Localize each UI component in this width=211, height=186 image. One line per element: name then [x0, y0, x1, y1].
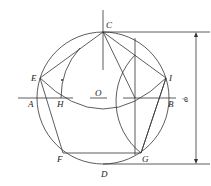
pentagon-construction-diagram: φ CEIFGAHBDO	[0, 0, 211, 186]
point-labels: CEIFGAHBDO	[27, 20, 174, 179]
point-label-i: I	[168, 73, 173, 83]
point-label-a: A	[27, 99, 34, 109]
point-label-g: G	[142, 154, 149, 164]
point-label-e: E	[30, 73, 37, 83]
point-label-d: D	[100, 169, 108, 179]
point-label-h: H	[56, 99, 64, 109]
dim-arrow-bottom-icon	[194, 159, 198, 164]
point-label-o: O	[95, 88, 102, 98]
point-label-b: B	[168, 99, 174, 109]
arc-arrow-dot	[61, 79, 63, 81]
construction-line-c	[103, 32, 135, 98]
dim-arrow-top-icon	[194, 32, 198, 37]
point-label-c: C	[106, 20, 113, 30]
dimension-label: φ	[182, 97, 192, 102]
point-label-f: F	[56, 154, 63, 164]
